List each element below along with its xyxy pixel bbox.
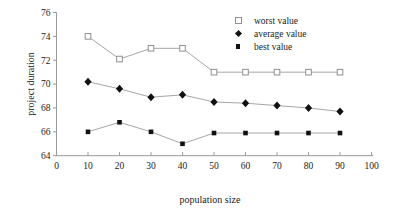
- filled-square-marker-icon: [338, 131, 343, 136]
- open-square-marker-icon: [337, 69, 343, 75]
- x-tick-label: 70: [272, 161, 282, 171]
- filled-square-marker-icon: [149, 130, 154, 135]
- x-tick-label: 20: [115, 161, 125, 171]
- open-square-marker-icon: [180, 46, 186, 52]
- legend-marker-cell: [231, 17, 245, 24]
- open-square-marker-icon: [85, 34, 91, 40]
- filled-square-marker-icon: [275, 131, 280, 136]
- x-tick-label: 30: [146, 161, 156, 171]
- chart-plot: 646668707274760102030405060708090100: [0, 0, 396, 216]
- open-square-marker-icon: [243, 69, 249, 75]
- filled-diamond-marker-icon: [84, 78, 91, 86]
- x-axis-label: population size: [180, 194, 241, 205]
- y-tick-label: 72: [41, 56, 51, 66]
- x-tick-label: 10: [83, 161, 93, 171]
- filled-square-marker-icon: [180, 141, 185, 146]
- chart-figure: 646668707274760102030405060708090100 pro…: [0, 0, 396, 216]
- series-line: [88, 82, 340, 112]
- filled-diamond-marker-icon: [242, 99, 249, 107]
- filled-diamond-marker-icon: [305, 104, 312, 112]
- x-tick-label: 90: [335, 161, 345, 171]
- open-square-marker-icon: [211, 69, 217, 75]
- filled-diamond-marker-icon: [116, 85, 123, 93]
- legend-item-best: best value: [231, 40, 306, 53]
- x-tick-label: 40: [178, 161, 188, 171]
- filled-square-marker-icon: [236, 44, 241, 49]
- legend-label: best value: [254, 42, 292, 52]
- y-tick-label: 70: [41, 79, 51, 89]
- filled-diamond-marker-icon: [273, 102, 280, 110]
- open-square-marker-icon: [148, 46, 154, 52]
- filled-diamond-marker-icon: [210, 98, 217, 106]
- open-square-marker-icon: [274, 69, 280, 75]
- open-square-marker-icon: [306, 69, 312, 75]
- y-axis-label: project duration: [25, 52, 36, 116]
- legend-item-worst: worst value: [231, 14, 306, 27]
- x-tick-label: 50: [209, 161, 219, 171]
- y-tick-label: 76: [41, 8, 51, 18]
- legend-marker-cell: [231, 31, 245, 36]
- filled-diamond-marker-icon: [179, 91, 186, 99]
- legend-marker-cell: [231, 44, 245, 49]
- x-tick-label: 0: [54, 161, 59, 171]
- legend-item-average: average value: [231, 27, 306, 40]
- filled-square-marker-icon: [243, 131, 248, 136]
- x-tick-label: 80: [304, 161, 314, 171]
- y-tick-label: 66: [41, 127, 51, 137]
- open-square-marker-icon: [235, 17, 242, 24]
- legend-label: average value: [254, 29, 306, 39]
- y-tick-label: 68: [41, 103, 51, 113]
- filled-diamond-marker-icon: [234, 30, 241, 37]
- filled-square-marker-icon: [86, 130, 91, 135]
- y-tick-label: 64: [41, 151, 51, 161]
- y-tick-label: 74: [41, 32, 51, 42]
- filled-diamond-marker-icon: [147, 93, 154, 101]
- x-tick-label: 60: [241, 161, 251, 171]
- filled-square-marker-icon: [212, 131, 217, 136]
- filled-square-marker-icon: [306, 131, 311, 136]
- filled-square-marker-icon: [117, 120, 122, 125]
- x-tick-label: 100: [364, 161, 379, 171]
- legend: worst value average value best value: [231, 14, 306, 53]
- legend-label: worst value: [254, 16, 298, 26]
- filled-diamond-marker-icon: [336, 108, 343, 116]
- open-square-marker-icon: [117, 56, 123, 62]
